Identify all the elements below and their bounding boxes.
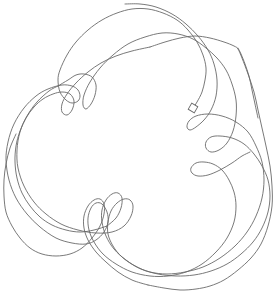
spirograph-drawing <box>0 0 278 296</box>
background <box>0 0 278 296</box>
